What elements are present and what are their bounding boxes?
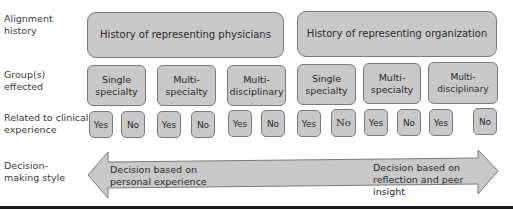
box-group-single-specialty-org: Single specialty bbox=[297, 64, 356, 105]
box-clinical-yes: Yes bbox=[429, 109, 453, 136]
arrow-left-text: Decision based on personal experience bbox=[110, 164, 220, 188]
row-label-clinical-experience: Related to clinical experience bbox=[4, 112, 90, 136]
box-clinical-yes: Yes bbox=[89, 111, 113, 138]
box-history-physicians: History of representing physicians bbox=[87, 12, 284, 58]
box-group-multi-disciplinary: Multi- disciplinary bbox=[227, 65, 286, 106]
arrow-right-text: Decision based on reflection and peer in… bbox=[373, 162, 483, 198]
box-clinical-yes: Yes bbox=[364, 109, 388, 136]
box-history-organization: History of representing organization bbox=[297, 11, 497, 57]
row-label-groups-effected: Group(s) effected bbox=[4, 69, 74, 93]
box-clinical-no: No bbox=[191, 111, 215, 138]
box-group-single-specialty: Single specialty bbox=[87, 65, 146, 106]
box-clinical-no: No bbox=[331, 109, 356, 137]
box-clinical-no: No bbox=[121, 111, 145, 138]
row-label-decision-style: Decision-making style bbox=[4, 160, 80, 184]
box-clinical-no: No bbox=[261, 110, 285, 137]
box-clinical-yes: Yes bbox=[228, 110, 252, 137]
box-group-multi-specialty-org: Multi- specialty bbox=[363, 63, 421, 104]
box-clinical-no: No bbox=[397, 109, 421, 136]
bottom-rule bbox=[0, 206, 513, 209]
box-group-multi-disciplinary-org: Multi-disciplinary bbox=[428, 62, 498, 104]
row-label-alignment-history: Alignment history bbox=[4, 13, 74, 37]
box-clinical-yes: Yes bbox=[157, 111, 181, 138]
box-group-multi-specialty: Multi- specialty bbox=[157, 65, 216, 106]
box-clinical-yes: Yes bbox=[297, 110, 321, 137]
box-clinical-no: No bbox=[473, 108, 497, 135]
